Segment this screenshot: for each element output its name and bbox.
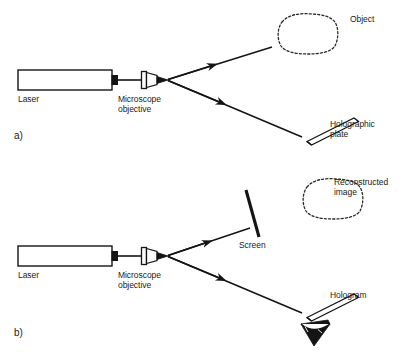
observer-eye-icon [301, 320, 330, 346]
objective-tip-a [157, 77, 168, 84]
panel-b-graphics [18, 179, 363, 346]
objective-label-b: Microscope objective [118, 270, 161, 290]
screen-label: Screen [239, 240, 266, 250]
laser-output-b [112, 252, 118, 261]
screen-plate [246, 190, 259, 237]
panel-label-a: a) [14, 130, 23, 141]
hologram-label: Hologram [330, 290, 366, 300]
object-outline-a [278, 14, 338, 54]
objective-collar-b [142, 248, 147, 265]
panel-label-b: b) [14, 327, 23, 338]
object-label: Object [350, 14, 374, 24]
upper-beam-arrow-b [168, 242, 208, 256]
objective-tip-b [157, 253, 168, 260]
objective-barrel-b [147, 249, 158, 264]
lower-beam-arrow-b [168, 257, 222, 280]
object-beam-arrow-a [168, 65, 213, 79]
laser-body-b [18, 246, 112, 266]
reconstructed-image-label: Reconstructed image [334, 177, 388, 197]
objective-label-a: Microscope objective [118, 94, 161, 114]
figure-canvas: a) Laser Microscope objective Object Hol… [0, 0, 404, 352]
reference-beam-arrow-a [168, 81, 222, 104]
holographic-plate-label: Holographic plate [330, 119, 375, 139]
laser-output-a [112, 76, 118, 85]
panel-a-graphics [18, 14, 359, 145]
laser-label-a: Laser [18, 94, 39, 104]
laser-label-b: Laser [18, 270, 39, 280]
objective-collar-a [142, 72, 147, 89]
laser-body-a [18, 70, 112, 90]
objective-barrel-a [147, 73, 158, 88]
